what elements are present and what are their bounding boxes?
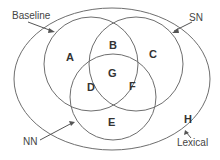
venn-diagram: Baseline SN NN Lexical A B C D E F G H <box>0 0 220 160</box>
region-g-label: G <box>108 67 117 79</box>
region-a-label: A <box>66 51 74 63</box>
region-b-label: B <box>109 39 117 51</box>
nn-label: NN <box>23 136 37 147</box>
baseline-label: Baseline <box>12 10 51 21</box>
region-d-label: D <box>87 81 95 93</box>
sn-set-circle <box>89 17 183 111</box>
lexical-label: Lexical <box>177 137 208 148</box>
region-e-label: E <box>108 116 115 128</box>
region-f-label: F <box>129 80 136 92</box>
region-c-label: C <box>149 48 157 60</box>
region-h-label: H <box>184 113 192 125</box>
sn-pointer <box>172 22 192 33</box>
sn-label: SN <box>189 12 203 23</box>
baseline-set-circle <box>44 17 138 111</box>
